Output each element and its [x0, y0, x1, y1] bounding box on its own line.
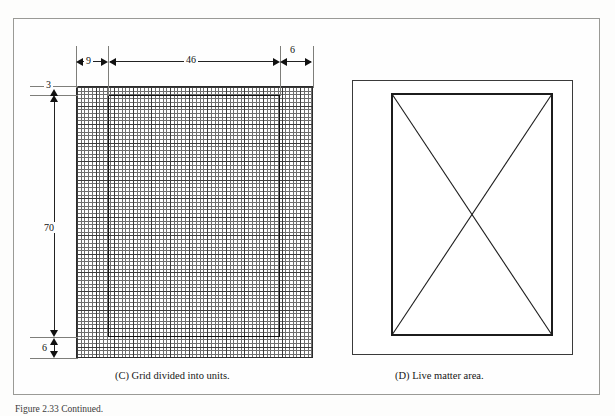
live-matter-rectangle	[391, 93, 553, 336]
panel-d-caption: (D) Live matter area.	[395, 369, 484, 382]
figure-page: 9 46 6 3 70	[0, 0, 615, 416]
witness-line-bottom	[30, 358, 78, 359]
dimension-label-70: 70	[42, 222, 56, 233]
dimension-label-6-bottom: 6	[40, 342, 49, 353]
witness-line-inner-left	[108, 46, 109, 96]
dimension-label-46: 46	[184, 54, 198, 65]
figure-caption: Figure 2.33 Continued.	[15, 403, 103, 416]
dimension-label-9: 9	[84, 55, 93, 66]
witness-line-inner-right	[280, 46, 281, 96]
witness-line-right	[313, 46, 314, 88]
dimension-label-6-right: 6	[288, 44, 297, 55]
grid-live-area-boundary	[108, 95, 280, 337]
witness-line-top	[30, 86, 78, 87]
panel-c-caption: (C) Grid divided into units.	[115, 369, 230, 382]
witness-line-left	[76, 46, 77, 88]
